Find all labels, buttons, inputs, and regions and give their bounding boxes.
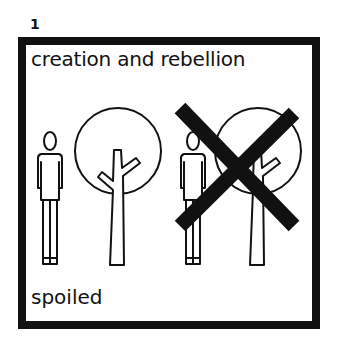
person-icon xyxy=(38,132,62,264)
panel-caption: spoiled xyxy=(31,285,102,309)
tree-icon xyxy=(75,108,161,265)
